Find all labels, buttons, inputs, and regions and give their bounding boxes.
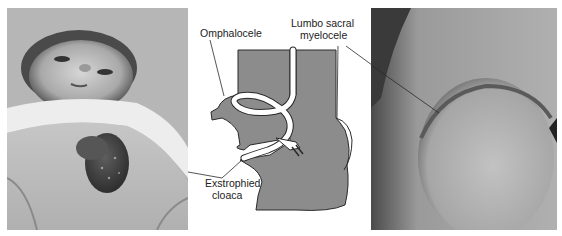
infant-photo-graphic (7, 8, 188, 230)
label-exstrophied-line2: cloaca (212, 190, 242, 201)
label-omphalocele: Omphalocele (200, 28, 262, 39)
label-lumbosacral-line1: Lumbo sacral (291, 18, 354, 29)
myelocele-photo-graphic (371, 8, 557, 230)
myelocele-photograph (371, 8, 557, 230)
label-lumbosacral-line2: myelocele (300, 30, 347, 41)
label-exstrophied-line1: Exstrophied (205, 178, 260, 189)
schematic-diagram: Omphalocele Lumbo sacral myelocele Exstr… (188, 0, 371, 236)
infant-photograph (7, 8, 188, 230)
